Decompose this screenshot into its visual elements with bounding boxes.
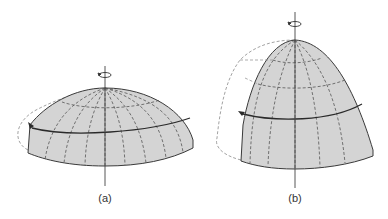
panel-a: (a) [18,66,193,204]
panel-a-dome-body [28,88,193,166]
panel-a-label: (a) [98,192,111,204]
panel-b: (b) [217,12,373,204]
panel-b-latitude-arrow-icon [238,111,245,116]
panel-b-label: (b) [288,192,301,204]
panel-a-rotation-arrow-icon [98,73,111,78]
panel-b-rotation-arrow-icon [288,22,301,27]
rotating-dome-diagram: (a) (b) [0,0,388,219]
panel-b-dome-body [241,40,373,169]
